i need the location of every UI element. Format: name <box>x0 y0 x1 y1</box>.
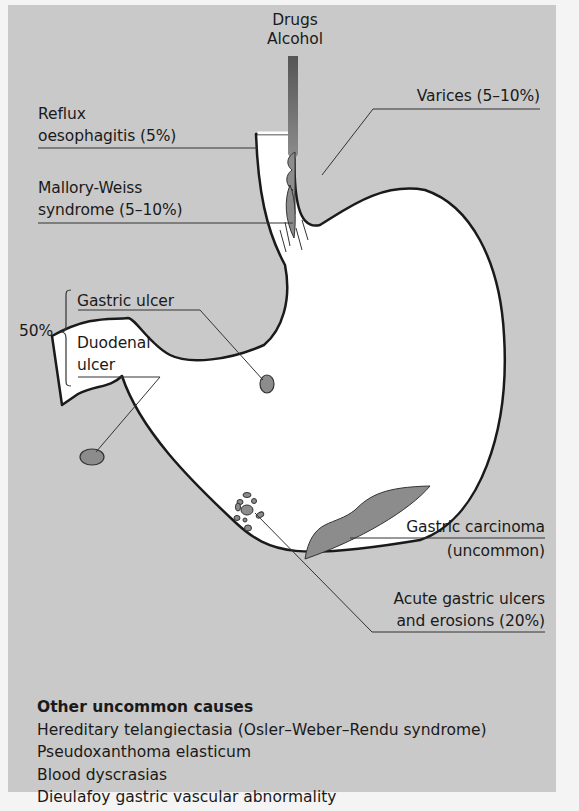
other-causes-list: Other uncommon causes Hereditary telangi… <box>37 696 487 809</box>
other-cause-item: Hereditary telangiectasia (Osler–Weber–R… <box>37 719 487 742</box>
label-acute-line1: Acute gastric ulcers <box>360 588 545 610</box>
drugs-alcohol-arrow <box>288 56 298 154</box>
label-50-percent: 50% <box>19 320 53 342</box>
label-carcinoma-line1: Gastric carcinoma <box>380 516 545 538</box>
label-mallory-line1: Mallory-Weiss <box>38 177 142 199</box>
label-acute-line2: and erosions (20%) <box>360 610 545 632</box>
label-duodenal-line1: Duodenal <box>77 332 150 354</box>
gastric-ulcer-lesion <box>260 375 274 393</box>
label-mallory-line2: syndrome (5–10%) <box>38 199 183 221</box>
label-gastric-ulcer: Gastric ulcer <box>77 290 174 312</box>
other-cause-item: Pseudoxanthoma elasticum <box>37 741 487 764</box>
other-cause-item: Blood dyscrasias <box>37 764 487 787</box>
other-cause-item: Dieulafoy gastric vascular abnormality <box>37 786 487 809</box>
other-causes-heading: Other uncommon causes <box>37 696 487 719</box>
label-reflux-line2: oesophagitis (5%) <box>38 125 176 147</box>
label-drugs: Drugs <box>255 11 335 30</box>
label-reflux-line1: Reflux <box>38 103 86 125</box>
label-alcohol: Alcohol <box>255 30 335 49</box>
duodenal-ulcer-lesion <box>80 449 104 465</box>
label-varices: Varices (5–10%) <box>380 85 540 107</box>
stomach-diagram <box>0 0 579 811</box>
label-carcinoma-line2: (uncommon) <box>380 540 545 562</box>
label-duodenal-line2: ulcer <box>77 354 115 376</box>
